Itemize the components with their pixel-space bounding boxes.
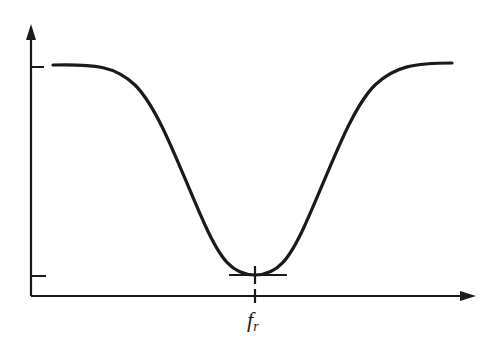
resonance-diagram: fr — [0, 0, 484, 338]
x-axis-arrow-icon — [460, 291, 476, 301]
y-axis-arrow-icon — [26, 24, 36, 40]
response-curve — [53, 63, 452, 275]
resonant-frequency-label: fr — [247, 307, 259, 334]
